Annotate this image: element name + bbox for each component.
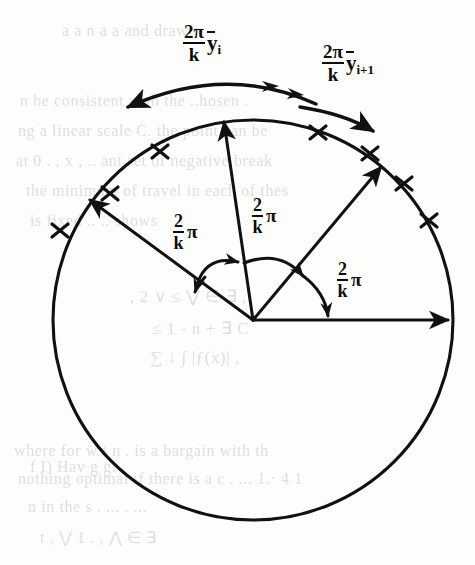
arc-label-right-variable-group: yi+1 [346, 50, 374, 76]
angle-label-middle-denominator: k [252, 217, 263, 236]
arc-label-left-fraction: 2π k [183, 22, 205, 64]
angle-label-right-denominator: k [337, 281, 348, 300]
angle-label-middle-pi: π [266, 205, 276, 227]
circle-tick-mark [102, 187, 118, 200]
angle-label-middle-numerator: 2 [252, 196, 263, 217]
angle-label-middle-fraction: 2 k [252, 196, 263, 236]
arc-bracket-left [128, 84, 316, 107]
arc-label-left-numerator: 2π [183, 22, 205, 44]
arc-label-right-variable-letter: y [346, 51, 357, 75]
arc-label-left-variable-letter: y [207, 31, 218, 55]
angle-label-right-pi: π [351, 269, 361, 291]
angle-label-right-numerator: 2 [337, 260, 348, 281]
angle-label-left-numerator: 2 [173, 212, 184, 233]
arc-label-left-variable: y [207, 30, 218, 54]
angle-label-left-pi: π [187, 221, 197, 243]
arc-label-right-subscript: i+1 [356, 62, 374, 77]
angle-label-right-fraction: 2 k [337, 260, 348, 300]
angle-label-right: 2 k π [337, 260, 361, 300]
overbar [207, 31, 216, 33]
angle-arc-middle [244, 258, 303, 276]
arc-label-left-denominator: k [183, 44, 205, 64]
figure-root: a a n a a and drawin n be consistent wit… [0, 0, 475, 565]
arc-label-left-subscript: i [217, 42, 221, 57]
arc-label-right-variable: y [346, 50, 357, 74]
radius-north [224, 122, 253, 320]
angle-label-left-fraction: 2 k [173, 212, 184, 252]
arc-label-right-denominator: k [322, 64, 344, 84]
arc-label-right: 2π k yi+1 [322, 42, 374, 84]
arc-label-right-fraction: 2π k [322, 42, 344, 84]
angle-label-left: 2 k π [173, 212, 197, 252]
arc-label-right-numerator: 2π [322, 42, 344, 64]
radius-northeast [253, 167, 381, 320]
angle-arc-right [302, 275, 328, 316]
circle-tick-mark [52, 224, 68, 237]
angle-label-left-denominator: k [173, 233, 184, 252]
arc-label-left: 2π k yi [183, 22, 221, 64]
circle-tick-mark [152, 145, 168, 158]
arc-label-left-variable-group: yi [207, 30, 221, 56]
angle-label-middle: 2 k π [252, 196, 276, 236]
overbar [346, 51, 355, 53]
diagram-canvas [0, 0, 475, 565]
